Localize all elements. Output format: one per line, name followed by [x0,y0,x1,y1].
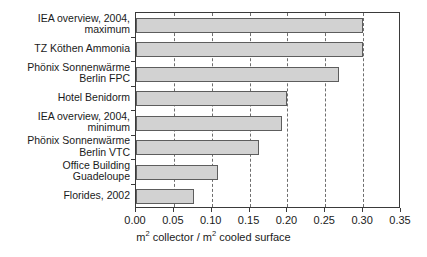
y-axis-tick [131,159,135,160]
category-label-column: IEA overview, 2004, maximumTZ Köthen Amm… [0,12,130,208]
y-axis-tick [131,86,135,87]
x-axis-tick [211,208,212,212]
category-label: Phönix Sonnenwärme Berlin FPC [0,62,130,85]
x-axis-tick-label: 0.05 [153,214,193,226]
bar [136,91,287,106]
y-axis-tick [131,184,135,185]
bar-row [136,140,401,155]
category-label: Phönix Sonnenwärme Berlin VTC [0,135,130,158]
bar-row [136,91,401,106]
bar [136,18,363,33]
y-axis-tick [131,61,135,62]
plot-area [135,12,400,208]
category-label: Hotel Benidorm [0,92,130,104]
x-axis-tick [362,208,363,212]
x-axis-tick [286,208,287,212]
bar-row [136,18,401,33]
x-axis-tick-label: 0.30 [342,214,382,226]
x-axis-tick-label: 0.20 [266,214,306,226]
category-label: Office Building Guadeloupe [0,160,130,183]
y-axis-tick [131,37,135,38]
x-axis-title: m2 collector / m2 cooled surface [0,231,427,243]
axis-title-suffix: cooled surface [216,231,291,243]
bar [136,67,339,82]
bar-row [136,67,401,82]
bar-chart: IEA overview, 2004, maximumTZ Köthen Amm… [0,0,427,257]
category-label: IEA overview, 2004, minimum [0,111,130,134]
x-axis-tick [324,208,325,212]
x-axis-tick-label: 0.00 [115,214,155,226]
x-axis-tick [135,208,136,212]
axis-title-mid: collector / m [150,231,212,243]
x-axis: 0.000.050.100.150.200.250.300.35 [135,208,400,209]
x-axis-tick-label: 0.15 [229,214,269,226]
bar [136,140,259,155]
y-axis-tick [131,135,135,136]
category-label: Florides, 2002 [0,190,130,202]
category-label: IEA overview, 2004, maximum [0,13,130,36]
category-label: TZ Köthen Ammonia [0,43,130,55]
x-axis-tick [173,208,174,212]
y-axis-tick [131,110,135,111]
bar-row [136,165,401,180]
bar [136,116,282,131]
x-axis-tick [400,208,401,212]
x-axis-tick-label: 0.25 [304,214,344,226]
bar [136,42,363,57]
x-axis-tick [249,208,250,212]
bar [136,165,218,180]
bar-row [136,42,401,57]
bar-row [136,116,401,131]
x-axis-tick-label: 0.35 [380,214,420,226]
bar [136,189,194,204]
x-axis-tick-label: 0.10 [191,214,231,226]
bar-row [136,189,401,204]
